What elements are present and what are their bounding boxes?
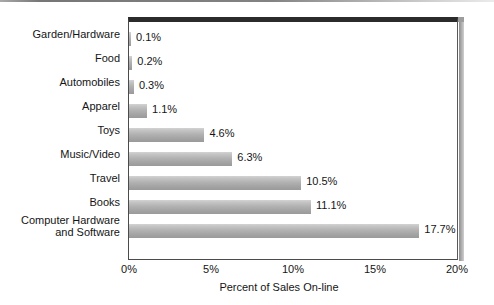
chart-frame-shadow-right <box>459 22 464 261</box>
bar <box>129 152 232 166</box>
bar-row: 1.1% <box>129 99 457 123</box>
x-axis-tick-label: 20% <box>427 263 487 275</box>
bar <box>129 200 311 214</box>
bar-row: 4.6% <box>129 123 457 147</box>
category-label: Books <box>2 196 120 208</box>
category-label: Travel <box>2 172 120 184</box>
x-axis-tick-label: 15% <box>345 263 405 275</box>
category-label: Computer Hardware and Software <box>2 214 120 238</box>
bar-row: 17.7% <box>129 219 457 243</box>
category-label: Music/Video <box>2 148 120 160</box>
bar-row: 0.2% <box>129 51 457 75</box>
bar-value-label: 6.3% <box>237 150 262 164</box>
bar-value-label: 0.1% <box>136 30 161 44</box>
bar-value-label: 10.5% <box>306 174 337 188</box>
bar <box>129 224 419 238</box>
category-label: Garden/Hardware <box>2 28 120 40</box>
x-axis-title: Percent of Sales On-line <box>0 281 494 293</box>
bar-row: 11.1% <box>129 195 457 219</box>
category-label: Automobiles <box>2 76 120 88</box>
scan-artifact-line <box>0 0 494 2</box>
chart-frame-shadow-top <box>458 17 464 22</box>
bar-value-label: 11.1% <box>316 198 346 212</box>
bar <box>129 176 301 190</box>
x-axis-tick-label: 5% <box>181 263 241 275</box>
bar-value-label: 1.1% <box>152 102 177 116</box>
bar-value-label: 0.3% <box>139 78 164 92</box>
category-label: Food <box>2 52 120 64</box>
x-axis-tick-label: 10% <box>263 263 323 275</box>
bar <box>129 56 132 70</box>
bar-row: 0.3% <box>129 75 457 99</box>
category-label: Toys <box>2 124 120 136</box>
bar-value-label: 17.7% <box>424 222 455 236</box>
bar <box>129 104 147 118</box>
bar-row: 0.1% <box>129 27 457 51</box>
x-axis-title-text: Percent of Sales On-line <box>219 281 338 293</box>
bar-value-label: 0.2% <box>137 54 162 68</box>
bar <box>129 80 134 94</box>
bar <box>129 32 131 46</box>
bar-row: 6.3% <box>129 147 457 171</box>
bar-value-label: 4.6% <box>209 126 234 140</box>
bar-row: 10.5% <box>129 171 457 195</box>
x-axis-tick-label: 0% <box>99 263 159 275</box>
bar <box>129 128 204 142</box>
category-label: Apparel <box>2 100 120 112</box>
chart-plot-area: 0.1%0.2%0.3%1.1%4.6%6.3%10.5%11.1%17.7% <box>129 22 457 260</box>
